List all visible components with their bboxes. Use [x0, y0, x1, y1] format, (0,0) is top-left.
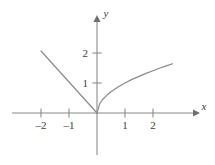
left-branch-line	[41, 51, 97, 113]
y-axis-arrowhead	[93, 15, 100, 22]
x-tick-label-2: 2	[150, 119, 156, 131]
graph-figure: –2 –1 1 2 1 2 x y	[0, 0, 215, 165]
y-axis-label: y	[103, 7, 109, 19]
x-tick-label-neg1: –1	[63, 119, 75, 131]
x-axis-arrowhead	[193, 109, 200, 116]
coordinate-plane-plot: –2 –1 1 2 1 2 x y	[0, 0, 215, 165]
y-tick-label-2: 2	[83, 47, 89, 59]
y-tick-label-1: 1	[83, 77, 89, 89]
x-axis-label: x	[201, 100, 207, 112]
x-tick-label-1: 1	[122, 119, 128, 131]
x-tick-label-neg2: –2	[35, 119, 47, 131]
right-branch-curve	[97, 64, 173, 113]
